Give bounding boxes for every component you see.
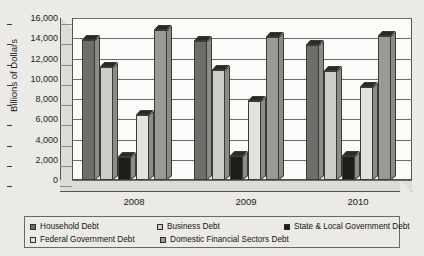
y-axis-tick-label: 16,000 (30, 14, 58, 23)
bar (360, 87, 373, 180)
legend-item[interactable]: State & Local Government Debt (284, 222, 394, 231)
y-axis-tick-mark (7, 105, 12, 106)
y-axis-tick-mark (7, 125, 12, 126)
x-axis-label: 2008 (82, 196, 186, 207)
bar-side (167, 26, 172, 180)
bar (248, 101, 261, 180)
bar (378, 36, 391, 180)
plot-area (60, 18, 412, 192)
gridline-back (60, 146, 72, 147)
y-axis-tick-mark (7, 65, 12, 66)
legend-row: Federal Government DebtDomestic Financia… (30, 233, 394, 246)
legend-swatch (284, 224, 290, 230)
bar-side (279, 33, 284, 180)
gridline-back (60, 85, 72, 86)
gridline-back (60, 125, 72, 126)
bar (136, 115, 149, 180)
bar (154, 30, 167, 180)
bar (194, 41, 207, 180)
bar-face (194, 41, 207, 180)
bar-face (306, 45, 319, 180)
y-axis-tick-label: 8,000 (35, 95, 58, 104)
y-axis-tick-label: 12,000 (30, 55, 58, 64)
legend-swatch (160, 237, 166, 243)
bar (230, 156, 243, 180)
chart-legend: Household DebtBusiness DebtState & Local… (24, 216, 400, 248)
gridline (72, 180, 412, 181)
legend-swatch (30, 224, 36, 230)
bar (324, 71, 337, 180)
legend-item[interactable]: Domestic Financial Sectors Debt (160, 235, 290, 244)
x-axis-label: 2010 (306, 196, 410, 207)
plot-floor (60, 180, 412, 192)
bar (100, 67, 113, 180)
bar (82, 40, 95, 180)
y-axis-tick-mark (7, 44, 12, 45)
bar (342, 156, 355, 180)
y-axis-tick-label: 0 (53, 176, 58, 185)
bar-face (82, 40, 95, 180)
x-axis-label: 2009 (194, 196, 298, 207)
legend-label: Household Debt (40, 222, 99, 231)
bar-group (306, 18, 410, 180)
legend-item[interactable]: Business Debt (157, 222, 284, 231)
bar (266, 37, 279, 180)
bar-face (154, 30, 167, 180)
bar-face (212, 70, 225, 180)
y-axis-tick-mark (7, 85, 12, 86)
bar-face (248, 101, 261, 180)
gridline-back (60, 186, 72, 187)
bar (306, 45, 319, 180)
gridline-back (60, 44, 72, 45)
legend-item[interactable]: Federal Government Debt (30, 235, 160, 244)
y-axis-tick-mark (7, 146, 12, 147)
gridline-back (60, 105, 72, 106)
y-axis-tick-label: 2,000 (35, 156, 58, 165)
bar-group (82, 18, 186, 180)
bar (118, 157, 131, 180)
gridline-back (60, 24, 72, 25)
bar (212, 70, 225, 180)
bar-series-group (72, 18, 412, 180)
legend-item[interactable]: Household Debt (30, 222, 157, 231)
bar-face (342, 156, 355, 180)
legend-row: Household DebtBusiness DebtState & Local… (30, 220, 394, 233)
y-axis-tick-label: 6,000 (35, 115, 58, 124)
y-axis-tick-mark (7, 24, 12, 25)
bar-face (100, 67, 113, 180)
gridline-back (60, 65, 72, 66)
bar-face (136, 115, 149, 180)
bar-face (378, 36, 391, 180)
legend-swatch (30, 237, 36, 243)
legend-label: Domestic Financial Sectors Debt (170, 235, 289, 244)
y-axis-tick-mark (7, 186, 12, 187)
y-axis-tick-label: 4,000 (35, 136, 58, 145)
y-axis-tick-mark (7, 166, 12, 167)
bar-group (194, 18, 298, 180)
bar-face (360, 87, 373, 180)
legend-label: Business Debt (167, 222, 220, 231)
y-axis-ticks: 16,00014,00012,00010,0008,0006,0004,0002… (0, 18, 58, 192)
legend-swatch (157, 224, 163, 230)
bar-face (266, 37, 279, 180)
bar-face (324, 71, 337, 180)
gridline-back (60, 166, 72, 167)
y-axis-tick-label: 14,000 (30, 34, 58, 43)
chart-container: Billions of Dollars 16,00014,00012,00010… (0, 0, 424, 256)
legend-label: State & Local Government Debt (294, 222, 410, 231)
bar-face (118, 157, 131, 180)
bar-side (391, 32, 396, 180)
bar-face (230, 156, 243, 180)
y-axis-tick-label: 10,000 (30, 75, 58, 84)
legend-label: Federal Government Debt (40, 235, 135, 244)
